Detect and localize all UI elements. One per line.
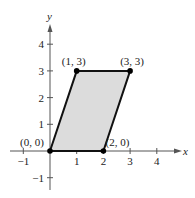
y-axis-label: y [46, 10, 52, 22]
vertex-point [74, 68, 80, 74]
vertex-label: (0, 0) [20, 136, 44, 149]
x-axis-arrow-icon [174, 149, 182, 154]
vertex-point [101, 148, 107, 154]
y-tick-label: 3 [39, 65, 45, 77]
x-tick-label: 2 [101, 155, 107, 167]
x-tick-label: 3 [127, 155, 133, 167]
vertex-label: (2, 0) [105, 136, 129, 149]
y-tick-label: 4 [39, 38, 45, 50]
y-axis-arrow-icon [48, 24, 53, 32]
x-tick-label: 4 [154, 155, 160, 167]
y-axis: y [46, 10, 53, 190]
vertex-point [47, 148, 53, 154]
vertex-label: (1, 3) [62, 55, 86, 68]
y-tick-label: 1 [39, 118, 45, 130]
vertex-label: (3, 3) [120, 55, 144, 68]
y-tick-label: 2 [39, 92, 45, 104]
y-tick-label: −1 [32, 172, 44, 184]
x-axis-label: x [182, 145, 188, 157]
x-tick-label: 1 [74, 155, 80, 167]
x-tick-label: −1 [17, 155, 29, 167]
vertex-point [127, 68, 133, 74]
coordinate-plot: x y −11234 −11234 (0, 0)(2, 0)(3, 3)(1, … [0, 0, 195, 198]
